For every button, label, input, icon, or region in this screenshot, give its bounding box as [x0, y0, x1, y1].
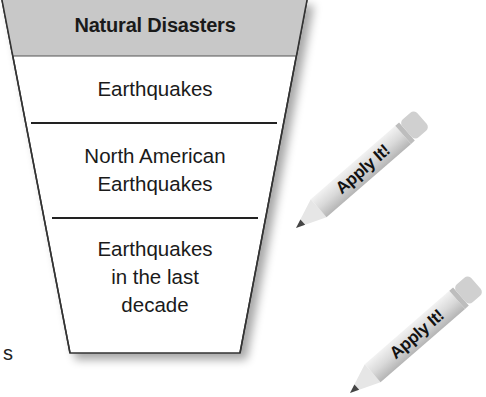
funnel-title: Natural Disasters	[40, 14, 270, 37]
level-2-line-1: North American	[40, 142, 270, 170]
funnel-level-3: Earthquakes in the last decade	[60, 235, 250, 319]
level-3-line-2: in the last	[60, 263, 250, 291]
level-3-line-3: decade	[60, 291, 250, 319]
funnel-level-1: Earthquakes	[40, 75, 270, 103]
level-1-line-1: Earthquakes	[40, 75, 270, 103]
margin-text: s	[3, 342, 13, 365]
funnel-level-2: North American Earthquakes	[40, 142, 270, 198]
level-2-line-2: Earthquakes	[40, 170, 270, 198]
level-3-line-1: Earthquakes	[60, 235, 250, 263]
